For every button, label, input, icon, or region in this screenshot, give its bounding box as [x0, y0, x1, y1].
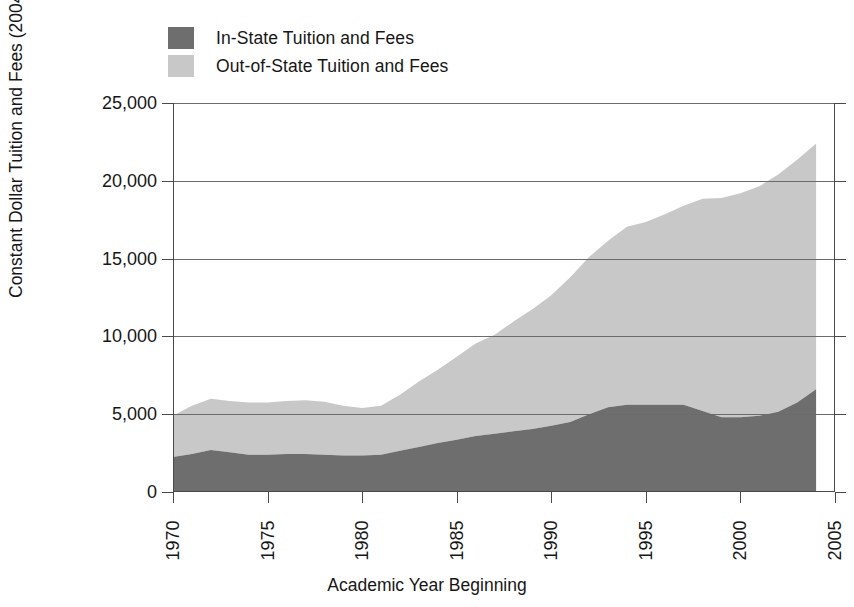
y-tick-label-0: 0: [147, 482, 157, 503]
gridline-25000: [173, 103, 835, 104]
x-tick-1995: [646, 492, 647, 503]
x-tick-label-1980: 1980: [342, 508, 382, 551]
x-axis-line: [173, 491, 835, 492]
legend-label-in-state: In-State Tuition and Fees: [216, 28, 414, 49]
y-tick-15000: [162, 259, 173, 260]
x-tick-1975: [268, 492, 269, 503]
y-tick-10000: [162, 336, 173, 337]
y-tick-0: [162, 492, 173, 493]
legend-swatch-out-of-state: [168, 55, 194, 77]
x-tick-label-2005: 2005: [815, 508, 854, 551]
y-axis-right-line: [834, 103, 835, 492]
y-tick-label-5000: 5,000: [112, 404, 157, 425]
gridline-20000: [173, 181, 835, 182]
x-tick-label-2000: 2000: [720, 508, 760, 551]
y-tick-5000-right: [835, 414, 846, 415]
gridline-5000: [173, 414, 835, 415]
x-tick-label-1995: 1995: [626, 508, 666, 551]
y-axis-line: [173, 103, 174, 492]
x-tick-label-1990: 1990: [531, 508, 571, 551]
y-tick-label-25000: 25,000: [102, 93, 157, 114]
y-tick-label-15000: 15,000: [102, 248, 157, 269]
y-tick-label-20000: 20,000: [102, 170, 157, 191]
x-tick-1985: [457, 492, 458, 503]
legend-item-in-state: In-State Tuition and Fees: [168, 24, 448, 52]
area-out-of-state: [173, 143, 816, 457]
y-tick-0-right: [835, 492, 846, 493]
x-tick-1980: [362, 492, 363, 503]
legend-item-out-of-state: Out-of-State Tuition and Fees: [168, 52, 448, 80]
plot-area: 05,00010,00015,00020,00025,000 197019751…: [173, 103, 835, 492]
x-tick-label-1970: 1970: [153, 508, 193, 551]
gridline-15000: [173, 259, 835, 260]
legend-swatch-in-state: [168, 27, 194, 49]
stacked-area-series: [173, 103, 835, 492]
x-tick-label-1985: 1985: [437, 508, 477, 551]
y-tick-15000-right: [835, 259, 846, 260]
x-axis-title: Academic Year Beginning: [0, 575, 854, 596]
gridline-10000: [173, 336, 835, 337]
y-tick-20000: [162, 181, 173, 182]
y-tick-label-10000: 10,000: [102, 326, 157, 347]
x-tick-2000: [740, 492, 741, 503]
y-tick-20000-right: [835, 181, 846, 182]
y-axis-title: Constant Dollar Tuition and Fees (2004): [6, 0, 27, 298]
legend-label-out-of-state: Out-of-State Tuition and Fees: [216, 56, 448, 77]
y-tick-5000: [162, 414, 173, 415]
y-tick-25000: [162, 103, 173, 104]
x-tick-label-1975: 1975: [248, 508, 288, 551]
x-tick-1970: [173, 492, 174, 503]
chart-legend: In-State Tuition and Fees Out-of-State T…: [168, 24, 448, 80]
x-tick-1990: [551, 492, 552, 503]
chart-container: In-State Tuition and Fees Out-of-State T…: [0, 0, 854, 607]
y-tick-25000-right: [835, 103, 846, 104]
y-tick-10000-right: [835, 336, 846, 337]
x-tick-2005: [835, 492, 836, 503]
